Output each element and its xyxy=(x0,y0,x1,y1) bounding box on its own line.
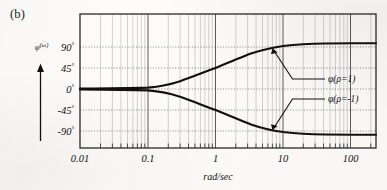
x-tick-label-10: 10 xyxy=(278,153,289,164)
y-tick-value-minus90: -90 xyxy=(57,126,72,137)
x-axis-label: rad/sec xyxy=(203,171,233,182)
y-tick-value-45: 45 xyxy=(61,63,72,74)
y-tick-unit-minus45: ° xyxy=(71,104,74,111)
y-tick-unit-90: ° xyxy=(71,41,74,48)
x-axis-tickmarks xyxy=(101,144,371,149)
x-tick-label-1: 1 xyxy=(213,153,218,164)
y-axis-label: φ(ω) xyxy=(35,41,48,52)
figure-panel-b: (b) xyxy=(0,0,387,190)
y-tick-unit-minus90: ° xyxy=(71,125,74,132)
y-tick-label-minus90: -90° xyxy=(57,125,74,137)
phase-bode-plot: φ(ω) 90° 45° 0° -45° -90° 0.01 0.1 1 10 … xyxy=(0,0,387,190)
y-tick-unit-0: ° xyxy=(71,83,74,90)
y-tick-label-45: 45° xyxy=(61,62,75,74)
y-tick-label-90: 90° xyxy=(61,41,75,53)
y-tick-label-0: 0° xyxy=(66,83,74,95)
legend-label-rho-negative: φ(ρ=-1) xyxy=(328,94,358,105)
legend-label-rho-positive: φ(ρ=1) xyxy=(328,74,355,85)
x-tick-label-0-1: 0.1 xyxy=(141,153,154,164)
x-tick-label-100: 100 xyxy=(343,153,360,164)
y-tick-value-minus45: -45 xyxy=(57,105,71,116)
x-tick-label-0-01: 0.01 xyxy=(71,153,89,164)
y-axis-arrow xyxy=(37,64,44,142)
y-tick-label-minus45: -45° xyxy=(57,104,74,116)
y-axis-label-superscript: (ω) xyxy=(39,41,48,49)
y-tick-unit-45: ° xyxy=(71,62,74,69)
